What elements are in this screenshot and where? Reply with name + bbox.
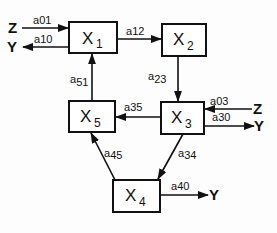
node-x2-sub: 2 <box>187 39 194 53</box>
coef-a35: a35 <box>124 101 142 113</box>
svg-text:a51: a51 <box>70 73 88 88</box>
coef-a30-sub: 30 <box>218 111 230 123</box>
input-z-right: Z <box>253 100 262 117</box>
node-x2: X 2 <box>162 24 206 56</box>
svg-text:a35: a35 <box>124 101 142 113</box>
node-x4-letter: X <box>125 186 136 205</box>
svg-text:a34: a34 <box>178 147 196 161</box>
svg-text:a30: a30 <box>212 111 230 123</box>
node-x5: X 5 <box>69 101 115 132</box>
node-x1-sub: 1 <box>96 37 103 51</box>
coef-a30: a30 <box>212 111 230 123</box>
coef-a12-sub: 12 <box>132 25 144 37</box>
coef-a10-sub: 10 <box>40 33 52 45</box>
svg-text:a03: a03 <box>210 95 228 107</box>
coef-a51: a51 <box>70 73 88 88</box>
coef-a34-sub: 34 <box>184 149 196 161</box>
coef-a34: a34 <box>178 147 196 161</box>
node-x3-letter: X <box>171 108 182 127</box>
coef-a23: a23 <box>148 70 166 85</box>
coef-a01: a01 <box>33 14 51 26</box>
node-x5-letter: X <box>80 107 91 126</box>
compartment-diagram: X 1 X 2 X 3 X 5 X 4 a01 a10 a12 a23 a51 … <box>0 0 277 233</box>
coef-a40-sub: 40 <box>177 180 189 192</box>
coef-a35-sub: 35 <box>130 101 142 113</box>
coef-a03-sub: 03 <box>216 95 228 107</box>
coef-a10: a10 <box>34 33 52 45</box>
input-z-left: Z <box>8 19 17 36</box>
coef-a12: a12 <box>126 25 144 37</box>
node-x1: X 1 <box>69 22 117 53</box>
node-x1-letter: X <box>82 29 93 48</box>
svg-text:a23: a23 <box>148 70 166 85</box>
coef-a45-sub: 45 <box>110 149 122 161</box>
output-y-right: Y <box>254 117 264 134</box>
output-y-left: Y <box>7 38 17 55</box>
node-x4-sub: 4 <box>139 195 146 209</box>
node-x2-letter: X <box>173 30 184 49</box>
node-x5-sub: 5 <box>94 116 101 130</box>
svg-text:a10: a10 <box>34 33 52 45</box>
coef-a51-sub: 51 <box>76 76 88 88</box>
svg-text:a45: a45 <box>104 147 122 161</box>
node-x3-sub: 3 <box>185 117 192 131</box>
coef-a01-sub: 01 <box>39 14 51 26</box>
svg-text:a12: a12 <box>126 25 144 37</box>
coef-a45: a45 <box>104 147 122 161</box>
svg-text:a40: a40 <box>171 180 189 192</box>
node-x3: X 3 <box>161 102 204 134</box>
coef-a40: a40 <box>171 180 189 192</box>
svg-text:a01: a01 <box>33 14 51 26</box>
coef-a03: a03 <box>210 95 228 107</box>
node-x4: X 4 <box>113 180 160 212</box>
coef-a23-sub: 23 <box>154 73 166 85</box>
output-y-bottom: Y <box>209 186 219 203</box>
